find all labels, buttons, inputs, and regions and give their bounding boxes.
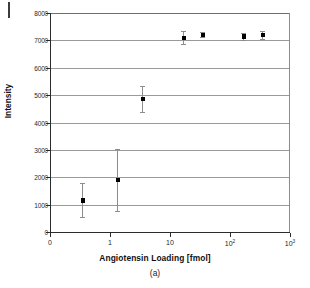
- x-tick-mark-4: [290, 233, 291, 237]
- y-tick-label-3000: 3000: [34, 146, 48, 153]
- error-bar-cap-upper: [140, 86, 145, 87]
- data-marker: [141, 97, 145, 101]
- gridline-7000: [50, 40, 290, 41]
- x-axis-title: Angiotensin Loading [fmol]: [0, 253, 310, 263]
- scan-edge-artifact: [8, 2, 10, 18]
- data-marker: [242, 34, 246, 38]
- y-axis-line: [50, 13, 51, 232]
- data-marker: [201, 33, 205, 37]
- gridline-8000: [50, 13, 290, 14]
- x-tick-mark-2: [170, 233, 171, 237]
- data-marker: [116, 178, 120, 182]
- error-bar-cap-lower: [260, 39, 265, 40]
- error-bar-cap-upper: [260, 31, 265, 32]
- x-tick-label-2: 10: [166, 239, 174, 246]
- x-tick-mark-3: [230, 233, 231, 237]
- y-tick-label-1000: 1000: [34, 201, 48, 208]
- y-tick-label-0: 0: [45, 229, 48, 236]
- error-bar-cap-lower: [241, 40, 246, 41]
- error-bar-cap-lower: [200, 37, 205, 38]
- error-bar-cap-lower: [80, 217, 85, 218]
- data-marker: [182, 36, 186, 40]
- y-axis-title: Intensity: [3, 41, 13, 161]
- x-tick-label-3: 102: [225, 239, 235, 247]
- data-marker: [81, 198, 85, 202]
- x-tick-mark-0: [50, 233, 51, 237]
- data-marker: [261, 33, 265, 37]
- plot-frame-right-edge: [289, 13, 290, 232]
- x-tick-mark-1: [110, 233, 111, 237]
- y-tick-label-6000: 6000: [34, 64, 48, 71]
- y-tick-label-8000: 8000: [34, 10, 48, 17]
- error-bar-cap-upper: [181, 31, 186, 32]
- x-tick-label-0: 0: [48, 239, 52, 246]
- gridline-4000: [50, 123, 290, 124]
- gridline-1000: [50, 205, 290, 206]
- gridline-5000: [50, 95, 290, 96]
- gridline-2000: [50, 177, 290, 178]
- y-tick-label-4000: 4000: [34, 119, 48, 126]
- figure-panel-a: 010002000300040005000600070008000 011010…: [0, 0, 310, 288]
- y-tick-label-5000: 5000: [34, 92, 48, 99]
- figure-caption: (a): [0, 268, 310, 278]
- x-tick-label-1: 1: [108, 239, 112, 246]
- gridline-3000: [50, 150, 290, 151]
- error-bar-cap-upper: [80, 183, 85, 184]
- y-tick-label-7000: 7000: [34, 37, 48, 44]
- x-tick-label-4: 103: [285, 239, 295, 247]
- error-bar-cap-lower: [115, 211, 120, 212]
- error-bar-cap-upper: [115, 149, 120, 150]
- error-bar-cap-lower: [140, 112, 145, 113]
- error-bar-cap-lower: [181, 44, 186, 45]
- gridline-6000: [50, 68, 290, 69]
- y-tick-label-2000: 2000: [34, 174, 48, 181]
